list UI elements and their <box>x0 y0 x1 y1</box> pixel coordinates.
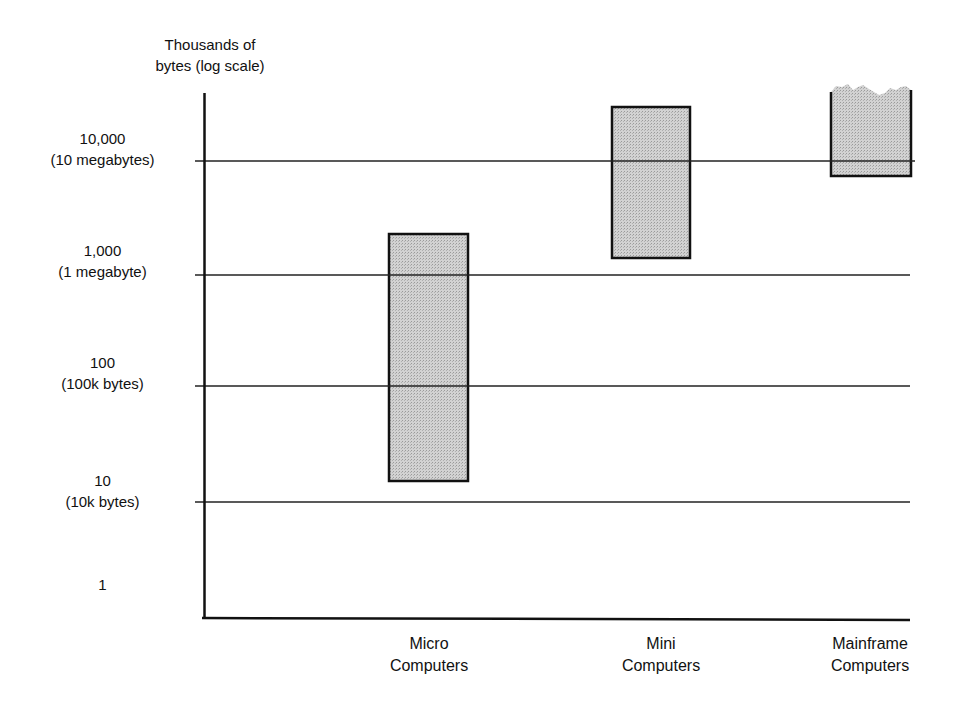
category-line: Mainframe <box>800 633 940 655</box>
x-category-mini: Mini Computers <box>591 633 731 677</box>
memory-range-chart: Thousands of bytes (log scale) 10,000 (1… <box>0 0 961 706</box>
category-line: Computers <box>359 655 499 677</box>
bar-micro-computers <box>389 234 468 481</box>
x-category-mainframe: Mainframe Computers <box>800 633 940 677</box>
bar-mini-computers <box>612 107 690 258</box>
category-line: Mini <box>591 633 731 655</box>
category-line: Computers <box>591 655 731 677</box>
plot-area <box>0 0 961 706</box>
category-line: Micro <box>359 633 499 655</box>
x-category-micro: Micro Computers <box>359 633 499 677</box>
category-line: Computers <box>800 655 940 677</box>
gridlines <box>195 161 915 502</box>
bar-mainframe-computers <box>831 84 911 176</box>
x-axis <box>202 618 910 620</box>
